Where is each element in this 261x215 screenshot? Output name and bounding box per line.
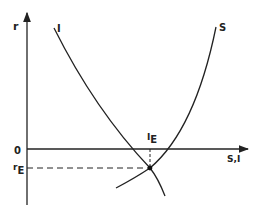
y-axis-label: r bbox=[13, 20, 19, 33]
i-curve-label: I bbox=[57, 23, 61, 34]
origin-label: 0 bbox=[14, 145, 21, 156]
s-curve-label: S bbox=[219, 22, 226, 33]
sav-inv-diagram: r I S 0 S,I rE IE bbox=[0, 0, 261, 215]
r-e-label: rE bbox=[13, 162, 24, 176]
equilibrium-point bbox=[148, 166, 153, 171]
i-e-label: IE bbox=[147, 132, 157, 145]
savings-curve bbox=[116, 27, 216, 188]
x-axis-label: S,I bbox=[227, 154, 240, 164]
investment-curve bbox=[54, 28, 165, 196]
